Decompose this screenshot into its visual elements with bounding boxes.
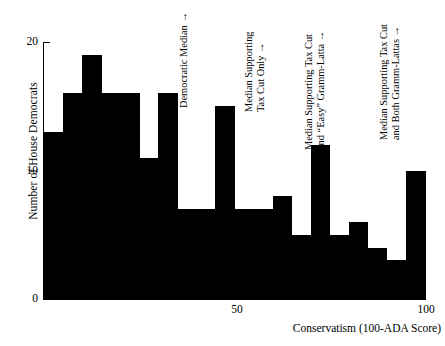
histogram-bar — [44, 132, 64, 299]
annotation-median-supporting-tax-cut-and-both-gramm-lattas: Median Supporting Tax Cut and Both Gramm… — [378, 24, 401, 140]
histogram-figure: Number of House Democrats 20 10 0 50 100… — [0, 0, 445, 346]
histogram-bar — [235, 209, 255, 299]
histogram-bar — [292, 235, 312, 299]
histogram-bar — [158, 93, 178, 299]
histogram-bar — [368, 248, 388, 299]
histogram-bar — [63, 93, 83, 299]
x-axis-label: Conservatism (100-ADA Score) — [0, 322, 441, 334]
histogram-bar — [254, 209, 274, 299]
annotation-line: and Both Gramm-Lattas → — [390, 24, 402, 140]
histogram-bar — [101, 93, 121, 299]
annotation-line: Tax Cut Only → — [255, 31, 267, 112]
y-tick-label-0: 0 — [12, 292, 38, 304]
plot-area — [44, 42, 425, 299]
annotation-democratic-median: Democratic Median → — [178, 12, 190, 108]
histogram-bar — [139, 158, 159, 299]
histogram-bar — [196, 209, 216, 299]
histogram-bar — [177, 209, 197, 299]
annotation-median-supporting-tax-cut-and-easy-gramm-latta: Median Supporting Tax Cut and “Easy” Gra… — [303, 31, 326, 150]
x-tick-label-100: 100 — [409, 303, 443, 315]
x-axis-line — [43, 299, 426, 300]
histogram-bar — [215, 106, 235, 299]
annotation-line: Democratic Median → — [178, 12, 190, 108]
histogram-bar — [311, 145, 331, 299]
histogram-bar — [273, 196, 293, 299]
annotation-median-supporting-tax-cut-only: Median Supporting Tax Cut Only → — [243, 31, 266, 112]
y-tick-label-20: 20 — [12, 35, 38, 47]
histogram-bar — [387, 260, 407, 299]
annotation-line: and “Easy” Gramm-Latta → — [315, 31, 327, 150]
histogram-bar — [120, 93, 140, 299]
annotation-line: Median Supporting — [243, 31, 255, 112]
histogram-bar — [406, 171, 426, 300]
x-tick-label-50: 50 — [220, 303, 254, 315]
annotation-line: Median Supporting Tax Cut — [378, 24, 390, 140]
y-axis-label: Number of House Democrats — [27, 56, 39, 246]
histogram-bar — [330, 235, 350, 299]
annotation-line: Median Supporting Tax Cut — [303, 31, 315, 150]
histogram-bar — [82, 55, 102, 299]
histogram-bar — [349, 222, 369, 299]
y-tick-label-10: 10 — [12, 164, 38, 176]
